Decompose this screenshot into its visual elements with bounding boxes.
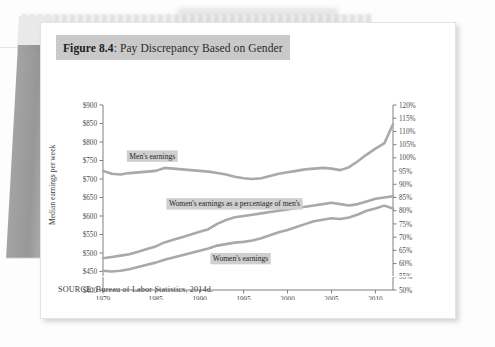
figure-caption: : Pay Discrepancy Based on Gender bbox=[114, 42, 283, 54]
y-tick-label-left: $600 bbox=[83, 213, 98, 221]
x-tick-label: 1979 bbox=[96, 296, 111, 300]
y-tick-label-right: 100% bbox=[399, 154, 416, 162]
y-tick-label-right: 85% bbox=[399, 194, 412, 202]
y-tick-label-right: 90% bbox=[399, 181, 412, 189]
card-divider bbox=[56, 276, 440, 277]
y-tick-label-left: $450 bbox=[83, 268, 98, 276]
y-tick-label-left: $750 bbox=[83, 157, 98, 165]
y-tick-label-left: $550 bbox=[83, 231, 98, 239]
y-tick-label-right: 75% bbox=[399, 221, 412, 229]
y-tick-label-right: 95% bbox=[399, 168, 412, 176]
x-tick-label: 1985 bbox=[149, 296, 164, 300]
y-tick-label-right: 120% bbox=[399, 102, 416, 110]
y-tick-label-left: $700 bbox=[83, 176, 98, 184]
y-tick-label-right: 105% bbox=[399, 141, 416, 149]
y-tick-label-right: 115% bbox=[399, 115, 416, 123]
x-tick-label: 1990 bbox=[192, 296, 207, 300]
figure-title: Figure 8.4: Pay Discrepancy Based on Gen… bbox=[56, 35, 290, 60]
y-tick-label-left: $500 bbox=[83, 250, 98, 258]
y-tick-label-right: 110% bbox=[399, 128, 416, 136]
y-tick-label-right: 70% bbox=[399, 234, 412, 242]
line-chart: $400$450$500$550$600$650$700$750$800$850… bbox=[41, 75, 455, 300]
y-axis-title: Median earnings per week bbox=[48, 144, 57, 225]
y-tick-label-right: 50% bbox=[399, 287, 412, 295]
annotation-label: Women's earnings as a percentage of men'… bbox=[169, 199, 300, 208]
annotation-label: Men's earnings bbox=[129, 152, 175, 161]
y-axis-right: 50%55%60%65%70%75%80%85%90%95%100%105%11… bbox=[393, 102, 416, 295]
y-axis-left: $400$450$500$550$600$650$700$750$800$850… bbox=[83, 102, 103, 295]
source-note: SOURCE: Bureau of Labor Statistics, 2014… bbox=[58, 285, 213, 294]
annotation-label: Women's earnings bbox=[213, 254, 268, 263]
chart-area: $400$450$500$550$600$650$700$750$800$850… bbox=[41, 75, 455, 300]
x-tick-label: 2010 bbox=[368, 296, 383, 300]
y-tick-label-right: 55% bbox=[399, 273, 412, 281]
y-tick-label-right: 80% bbox=[399, 207, 412, 215]
data-series-group bbox=[103, 124, 393, 271]
y-tick-label-left: $900 bbox=[83, 102, 98, 110]
x-tick-label: 2005 bbox=[324, 296, 339, 300]
y-tick-label-left: $850 bbox=[83, 120, 98, 128]
y-tick-label-right: 60% bbox=[399, 260, 412, 268]
figure-card: Figure 8.4: Pay Discrepancy Based on Gen… bbox=[40, 22, 456, 319]
x-tick-label: 1995 bbox=[236, 296, 251, 300]
x-tick-label: 2000 bbox=[280, 296, 295, 300]
y-tick-label-left: $650 bbox=[83, 194, 98, 202]
figure-number: Figure 8.4 bbox=[63, 42, 114, 54]
y-tick-label-left: $800 bbox=[83, 139, 98, 147]
y-tick-label-right: 65% bbox=[399, 247, 412, 255]
